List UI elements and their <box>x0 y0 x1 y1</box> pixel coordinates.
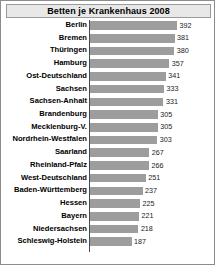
bar <box>90 161 149 170</box>
bar-value-label: 187 <box>134 237 146 247</box>
bar-value-label: 305 <box>160 110 172 120</box>
bar-row: Sachsen333 <box>1 84 215 97</box>
bar <box>90 21 177 30</box>
bar-row: Bayern221 <box>1 211 215 224</box>
bar-row: West-Deutschland251 <box>1 173 215 186</box>
bar-row: Nordrhein-Westfalen303 <box>1 134 215 147</box>
bar <box>90 237 132 246</box>
chart-title-box: Betten je Krankenhaus 2008 <box>6 4 211 18</box>
bar-value-label: 266 <box>152 161 164 171</box>
bar-category-label: Baden-Württemberg <box>0 185 87 195</box>
bar-category-label: Hessen <box>0 198 87 208</box>
bar-category-label: Ost-Deutschland <box>0 71 87 81</box>
bar-value-label: 331 <box>166 97 178 107</box>
bar-row: Hessen225 <box>1 198 215 211</box>
bar <box>90 72 166 81</box>
bar-row: Thüringen380 <box>1 45 215 58</box>
bar-value-label: 267 <box>152 148 164 158</box>
bar-row: Hamburg357 <box>1 58 215 71</box>
bar <box>90 212 139 221</box>
plot-area: Berlin392Bremen381Thüringen380Hamburg357… <box>1 20 215 264</box>
bar-row: Sachsen-Anhalt331 <box>1 96 215 109</box>
bar <box>90 110 158 119</box>
bar-row: Mecklenburg-V.305 <box>1 122 215 135</box>
bar <box>90 225 138 234</box>
bar-value-label: 341 <box>168 71 180 81</box>
bar <box>90 85 164 94</box>
bar-category-label: Niedersachsen <box>0 224 87 234</box>
bar-row: Berlin392 <box>1 20 215 33</box>
bar-value-label: 392 <box>180 21 192 31</box>
bar-category-label: Nordrhein-Westfalen <box>0 134 87 144</box>
bar-value-label: 225 <box>142 199 154 209</box>
bar-category-label: Bayern <box>0 211 87 221</box>
bar <box>90 187 143 196</box>
bar <box>90 47 174 56</box>
bar <box>90 148 149 157</box>
bar-value-label: 303 <box>160 135 172 145</box>
bar-category-label: Thüringen <box>0 45 87 55</box>
bar-row: Baden-Württemberg237 <box>1 185 215 198</box>
bar-value-label: 380 <box>177 46 189 56</box>
bar-row: Rheinland-Pfalz266 <box>1 160 215 173</box>
bar-value-label: 218 <box>141 224 153 234</box>
bar-value-label: 333 <box>166 84 178 94</box>
bar-value-label: 357 <box>172 59 184 69</box>
bar-row: Ost-Deutschland341 <box>1 71 215 84</box>
bar-category-label: Saarland <box>0 147 87 157</box>
bar <box>90 59 169 68</box>
bar-value-label: 221 <box>142 211 154 221</box>
bar-category-label: Berlin <box>0 20 87 30</box>
bar-category-label: Mecklenburg-V. <box>0 122 87 132</box>
chart-title: Betten je Krankenhaus 2008 <box>47 7 170 16</box>
bar-chart-figure: Betten je Krankenhaus 2008 Berlin392Brem… <box>0 0 215 265</box>
bar <box>90 174 146 183</box>
bar-category-label: Bremen <box>0 33 87 43</box>
bar-category-label: Schleswig-Holstein <box>0 236 87 246</box>
bar-value-label: 381 <box>177 33 189 43</box>
bar-category-label: Brandenburg <box>0 109 87 119</box>
bar-category-label: West-Deutschland <box>0 173 87 183</box>
bar-row: Brandenburg305 <box>1 109 215 122</box>
bar-row: Bremen381 <box>1 33 215 46</box>
bar-row: Schleswig-Holstein187 <box>1 236 215 249</box>
bar <box>90 136 157 145</box>
bar-category-label: Rheinland-Pfalz <box>0 160 87 170</box>
bar <box>90 34 175 43</box>
bar-value-label: 251 <box>148 173 160 183</box>
bar-category-label: Sachsen-Anhalt <box>0 96 87 106</box>
bar <box>90 199 140 208</box>
bar-row: Niedersachsen218 <box>1 224 215 237</box>
bar-row: Saarland267 <box>1 147 215 160</box>
bar-category-label: Sachsen <box>0 84 87 94</box>
bar <box>90 98 163 107</box>
bar-value-label: 237 <box>145 186 157 196</box>
bar <box>90 123 158 132</box>
bar-category-label: Hamburg <box>0 58 87 68</box>
bar-value-label: 305 <box>160 122 172 132</box>
